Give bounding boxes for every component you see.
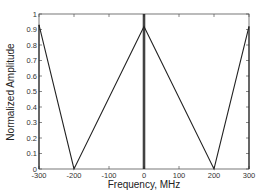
- x-tick-label: 200: [208, 171, 221, 180]
- y-axis-ticks: 00.10.20.30.40.50.60.70.80.91: [27, 10, 249, 174]
- x-tick-label: -200: [66, 171, 81, 180]
- x-tick-label: 300: [243, 171, 256, 180]
- y-tick-label: 1: [33, 10, 37, 19]
- y-tick-label: 0.8: [27, 41, 37, 50]
- x-axis-label: Frequency, MHz: [108, 179, 181, 190]
- plot-frame: [39, 14, 249, 169]
- y-tick-label: 0.1: [27, 149, 37, 158]
- y-tick-label: 0.7: [27, 56, 37, 65]
- y-tick-label: 0.6: [27, 72, 37, 81]
- y-tick-label: 0.5: [27, 87, 37, 96]
- y-tick-label: 0.3: [27, 118, 37, 127]
- y-tick-label: 0.2: [27, 134, 37, 143]
- chart: -300-200-1000100200300 00.10.20.30.40.50…: [0, 0, 259, 192]
- data-series: [39, 14, 249, 169]
- plot-border: [39, 14, 249, 169]
- y-tick-label: 0.9: [27, 25, 37, 34]
- y-axis-label: Normalized Amplitude: [5, 43, 16, 141]
- y-tick-label: 0: [33, 165, 37, 174]
- envelope-line: [39, 25, 249, 169]
- y-tick-label: 0.4: [27, 103, 37, 112]
